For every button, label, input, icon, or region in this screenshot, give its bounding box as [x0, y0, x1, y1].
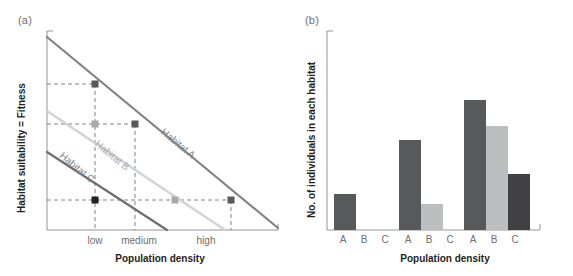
data-point-b-medium [92, 121, 99, 128]
bar-low-habitat-a [334, 194, 356, 230]
data-point-a-high [228, 197, 235, 204]
panel-b: (b) No. of individuals in each habitat P… [290, 0, 573, 276]
line-label-habitat-b: Habitat B [93, 138, 132, 173]
data-point-b-high [172, 197, 179, 204]
line-label-habitat-a: Habitat A [159, 126, 198, 161]
data-point-a-low [92, 81, 99, 88]
bar-medium-habitat-a [399, 140, 421, 230]
bar-high-habitat-c [508, 174, 530, 230]
marker-group-habitat-a [92, 81, 235, 204]
panel-a-plot: Habitat A Habitat B Habitat C [0, 0, 290, 276]
figure-container: (a) Habitat suitability = Fitness Popula… [0, 0, 573, 276]
data-point-a-medium [132, 121, 139, 128]
bar-high-habitat-a [464, 100, 486, 230]
bar-high-habitat-b [486, 126, 508, 230]
line-label-habitat-c: Habitat C [58, 150, 97, 185]
marker-group-habitat-c [92, 197, 99, 204]
bar-medium-habitat-b [421, 204, 443, 230]
panel-b-plot [290, 0, 573, 276]
data-point-c-high [92, 197, 99, 204]
bar-group-high [464, 100, 530, 230]
bar-group-medium [399, 140, 443, 230]
panel-a: (a) Habitat suitability = Fitness Popula… [0, 0, 290, 276]
bar-group-low [334, 194, 356, 230]
